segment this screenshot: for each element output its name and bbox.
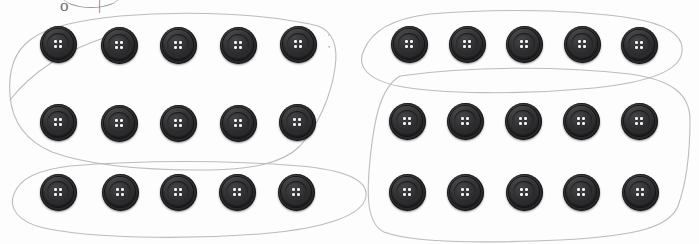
button-hole (238, 188, 241, 191)
button-hole (640, 117, 643, 120)
button-holes (234, 119, 242, 127)
button-holes (578, 40, 586, 48)
button-l1-3[interactable] (160, 27, 197, 64)
button-holes (636, 188, 644, 196)
button-l1-4[interactable] (220, 27, 257, 64)
button-hole (294, 40, 297, 43)
button-l1-5[interactable] (280, 26, 317, 63)
button-r2-3[interactable] (505, 103, 542, 140)
button-l3-4[interactable] (219, 174, 256, 211)
button-r1-5[interactable] (621, 27, 658, 64)
button-hole (54, 123, 57, 126)
button-holes (405, 40, 413, 48)
button-hole (174, 193, 177, 196)
button-hole (410, 40, 413, 43)
button-hole (54, 40, 57, 43)
button-hole (410, 45, 413, 48)
button-hole (582, 117, 585, 120)
button-hole (635, 41, 638, 44)
button-hole (524, 122, 527, 125)
button-hole (120, 46, 123, 49)
button-hole (408, 122, 411, 125)
button-hole (524, 117, 527, 120)
button-hole (292, 188, 295, 191)
button-hole (174, 124, 177, 127)
button-holes (520, 188, 528, 196)
button-hole (54, 188, 57, 191)
button-l2-4[interactable] (220, 105, 257, 142)
button-l2-1[interactable] (40, 104, 77, 141)
button-l2-2[interactable] (101, 105, 138, 142)
button-hole (463, 40, 466, 43)
button-hole (234, 41, 237, 44)
tick-right-of-row1-left-lower: ˺ (327, 44, 330, 55)
button-hole (294, 45, 297, 48)
button-r2-4[interactable] (563, 103, 600, 140)
button-r3-1[interactable] (389, 174, 426, 211)
button-hole (297, 193, 300, 196)
button-hole (640, 41, 643, 44)
button-r2-1[interactable] (389, 103, 426, 140)
button-hole (234, 46, 237, 49)
button-holes (461, 117, 469, 125)
button-r3-4[interactable] (563, 174, 600, 211)
button-hole (403, 193, 406, 196)
button-hole (299, 40, 302, 43)
button-r3-2[interactable] (447, 174, 484, 211)
button-hole (59, 118, 62, 121)
button-hole (641, 188, 644, 191)
button-holes (293, 118, 301, 126)
button-hole (239, 124, 242, 127)
button-hole (461, 193, 464, 196)
button-hole (239, 46, 242, 49)
button-hole (641, 193, 644, 196)
button-hole (54, 45, 57, 48)
button-hole (54, 193, 57, 196)
button-hole (115, 124, 118, 127)
button-hole (121, 193, 124, 196)
button-hole (179, 46, 182, 49)
button-hole (466, 122, 469, 125)
button-hole (582, 188, 585, 191)
button-hole (466, 188, 469, 191)
button-hole (519, 117, 522, 120)
button-r2-5[interactable] (621, 103, 658, 140)
button-hole (582, 193, 585, 196)
button-holes (635, 41, 643, 49)
button-hole (59, 40, 62, 43)
button-l2-5[interactable] (279, 104, 316, 141)
button-l1-2[interactable] (101, 27, 138, 64)
button-hole (408, 117, 411, 120)
button-r3-5[interactable] (622, 174, 659, 211)
button-l3-5[interactable] (278, 174, 315, 211)
button-r1-1[interactable] (391, 26, 428, 63)
button-l1-1[interactable] (40, 26, 77, 63)
button-hole (520, 40, 523, 43)
button-hole (59, 193, 62, 196)
button-r2-2[interactable] (447, 103, 484, 140)
button-hole (233, 188, 236, 191)
button-holes (115, 41, 123, 49)
button-hole (403, 117, 406, 120)
button-hole (174, 188, 177, 191)
button-l2-3[interactable] (160, 105, 197, 142)
button-l3-1[interactable] (40, 174, 77, 211)
button-hole (54, 118, 57, 121)
button-holes (519, 117, 527, 125)
button-r1-3[interactable] (506, 26, 543, 63)
button-hole (577, 193, 580, 196)
button-r1-4[interactable] (564, 26, 601, 63)
button-r1-2[interactable] (449, 26, 486, 63)
button-hole (174, 119, 177, 122)
button-hole (525, 193, 528, 196)
button-hole (403, 188, 406, 191)
button-hole (408, 188, 411, 191)
button-l3-2[interactable] (102, 174, 139, 211)
button-hole (179, 188, 182, 191)
button-holes (233, 188, 241, 196)
button-hole (461, 117, 464, 120)
button-r3-3[interactable] (506, 174, 543, 211)
button-l3-3[interactable] (160, 174, 197, 211)
button-holes (174, 119, 182, 127)
button-holes (635, 117, 643, 125)
